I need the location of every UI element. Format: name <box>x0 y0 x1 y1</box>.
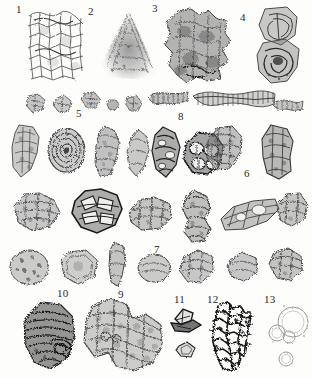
specimen-row4-item-2-dark <box>68 186 124 236</box>
specimen-3-lobate-clast <box>160 6 234 86</box>
specimen-12-skeletal-framework <box>202 300 258 372</box>
specimen-11-crystal-large <box>166 306 202 334</box>
specimen-6-elongate-clast <box>256 122 296 180</box>
specimen-8-stray-fragment <box>270 96 304 114</box>
specimen-row5-small-4 <box>136 252 172 284</box>
specimen-row3-rounded <box>204 124 244 172</box>
paper-grain-texture <box>0 0 312 378</box>
plate-label-1: 1 <box>16 4 22 15</box>
plate-label-4: 4 <box>240 12 246 23</box>
plate-label-13: 13 <box>264 294 275 305</box>
micrograph-plate: 1 2 3 4 5 6 7 8 9 10 11 12 13 <box>0 0 312 378</box>
plate-label-11: 11 <box>174 294 185 305</box>
plate-label-9: 9 <box>118 289 124 300</box>
specimen-row3-item-1 <box>8 122 42 178</box>
plate-label-3: 3 <box>152 3 158 14</box>
plate-label-12: 12 <box>207 294 218 305</box>
specimen-10-banded <box>20 300 78 370</box>
specimen-5-grain-c <box>80 90 102 110</box>
specimen-11-crystal-small <box>174 340 198 360</box>
specimen-row5-small-1 <box>8 248 50 286</box>
specimen-row5-small-3-rod <box>106 240 128 288</box>
plate-label-7: 7 <box>154 244 160 255</box>
specimen-row5-small-5 <box>176 248 216 286</box>
specimen-5-grain-b <box>52 94 74 114</box>
specimen-9-pitted-mass <box>80 296 164 376</box>
specimen-row5-small-7 <box>266 246 306 284</box>
plate-label-6: 6 <box>244 168 250 179</box>
specimen-row3-dark-lobes <box>180 128 226 178</box>
specimen-5-grain-e <box>124 94 142 112</box>
specimen-row3-item-3 <box>92 124 122 178</box>
specimen-5-grain-d <box>106 98 120 111</box>
specimen-8-annulated-filament <box>190 86 276 112</box>
specimen-5-grain-a <box>24 92 48 114</box>
specimen-row3-item-4 <box>124 128 152 178</box>
specimen-row5-small-6 <box>224 250 260 284</box>
specimen-4-coiled-pair <box>252 4 304 88</box>
specimen-1-reticulate-tissue <box>26 6 88 84</box>
specimen-row4-item-6 <box>272 190 310 230</box>
specimen-row3-item-2-coiled <box>46 126 86 174</box>
specimen-row5-small-2 <box>58 248 100 286</box>
specimen-8-dark-crinkled <box>148 124 182 178</box>
specimen-8-striated-short <box>146 88 190 110</box>
plate-label-8: 8 <box>178 111 184 122</box>
plate-label-10: 10 <box>57 288 68 299</box>
plate-label-5: 5 <box>76 108 82 119</box>
specimen-row4-item-3 <box>126 194 174 236</box>
specimen-2-granular-mass <box>98 8 160 82</box>
specimen-row4-item-1 <box>10 190 62 234</box>
specimen-13-spheres <box>268 304 312 374</box>
specimen-row4-item-5-rod <box>218 196 280 234</box>
specimen-row4-item-4-coiled <box>178 188 218 244</box>
plate-label-2: 2 <box>88 6 94 17</box>
